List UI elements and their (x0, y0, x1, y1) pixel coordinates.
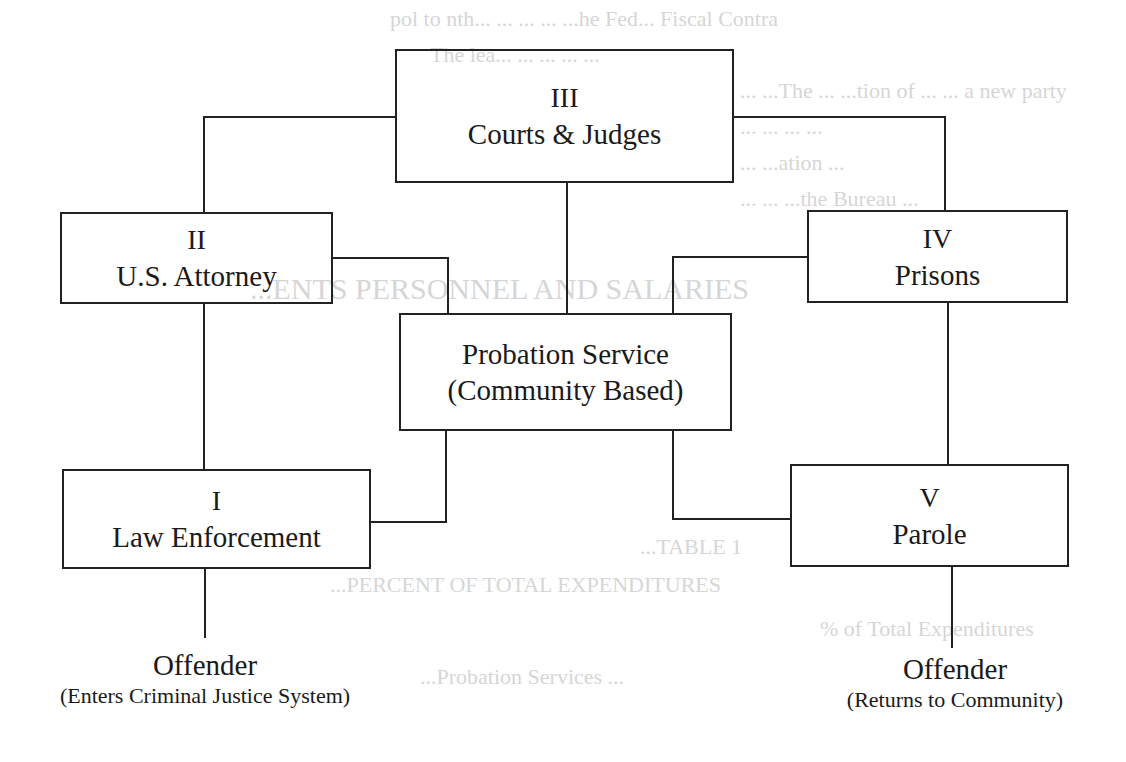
node-probation-service: Probation Service (Community Based) (399, 313, 732, 431)
node-us-attorney: II U.S. Attorney (60, 212, 333, 304)
connector-probation-law (370, 430, 446, 522)
node-label: Courts & Judges (468, 116, 661, 152)
offender-returns: Offender (Returns to Community) (800, 652, 1110, 714)
node-courts-judges: III Courts & Judges (395, 49, 734, 183)
node-parole: V Parole (790, 464, 1069, 567)
connector-attorney-probation (333, 258, 448, 313)
node-number: III (551, 80, 579, 116)
node-label: Probation Service (462, 336, 669, 372)
offender-enters: Offender (Enters Criminal Justice System… (35, 648, 375, 710)
connector-prisons-probation (673, 257, 807, 313)
connector-probation-parole (673, 430, 790, 519)
node-label: Law Enforcement (112, 519, 321, 555)
node-label: Prisons (895, 257, 980, 293)
connector-courts-prisons (733, 117, 945, 210)
connector-courts-attorney (204, 117, 396, 212)
node-label: U.S. Attorney (116, 258, 276, 294)
node-number: I (212, 483, 221, 519)
offender-subtitle: (Returns to Community) (800, 686, 1110, 714)
node-sublabel: (Community Based) (447, 372, 683, 408)
node-label: Parole (892, 516, 966, 552)
node-number: IV (923, 221, 953, 257)
offender-title: Offender (35, 648, 375, 682)
offender-subtitle: (Enters Criminal Justice System) (35, 682, 375, 710)
node-law-enforcement: I Law Enforcement (62, 469, 371, 569)
node-number: V (919, 480, 939, 516)
node-number: II (187, 222, 206, 258)
offender-title: Offender (800, 652, 1110, 686)
node-prisons: IV Prisons (807, 210, 1068, 303)
